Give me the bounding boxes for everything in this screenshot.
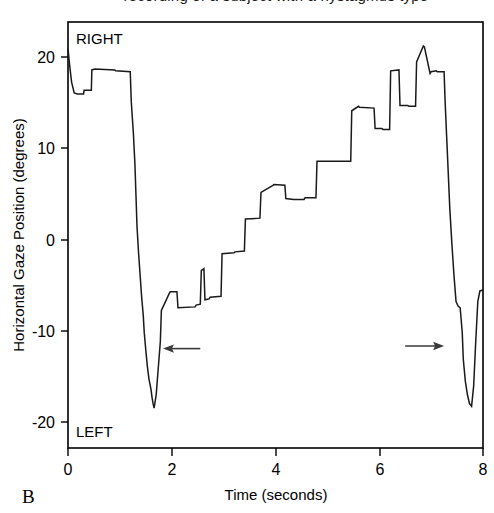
x-tick-label-0: 0 — [64, 461, 73, 478]
x-tick-label-2: 2 — [168, 461, 177, 478]
annotation-arrows — [163, 342, 444, 353]
y-tick-label-neg20: -20 — [32, 414, 55, 431]
x-tick-label-8: 8 — [479, 461, 488, 478]
gaze-position-chart: 20 10 0 -10 -20 0 2 4 6 8 Time (seconds)… — [0, 0, 494, 513]
figure-panel-b: recording of a subject with a nystagmus … — [0, 0, 494, 513]
x-axis-ticks — [68, 448, 483, 456]
x-tick-label-4: 4 — [272, 461, 281, 478]
y-tick-label-0: 0 — [46, 232, 55, 249]
y-axis-title: Horizontal Gaze Position (degrees) — [10, 118, 27, 351]
y-axis-ticks — [61, 57, 68, 422]
x-tick-label-6: 6 — [376, 461, 385, 478]
gaze-trace-line — [68, 46, 483, 408]
y-tick-label-10: 10 — [37, 140, 55, 157]
rightward-arrow — [405, 342, 444, 350]
y-tick-label-20: 20 — [37, 49, 55, 66]
x-axis-tick-labels: 0 2 4 6 8 — [64, 461, 488, 478]
direction-label-right: RIGHT — [76, 30, 123, 47]
panel-letter: B — [22, 486, 35, 507]
y-axis-tick-labels: 20 10 0 -10 -20 — [32, 49, 55, 431]
leftward-arrow — [163, 344, 200, 352]
direction-label-left: LEFT — [76, 423, 113, 440]
x-axis-title: Time (seconds) — [225, 486, 328, 503]
y-tick-label-neg10: -10 — [32, 323, 55, 340]
